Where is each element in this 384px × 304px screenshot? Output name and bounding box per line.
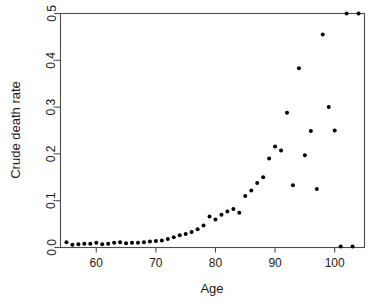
- data-point: [249, 188, 253, 192]
- data-point: [172, 235, 176, 239]
- data-point: [279, 149, 283, 153]
- data-point: [82, 242, 86, 246]
- data-point: [225, 209, 229, 213]
- data-point: [94, 241, 98, 245]
- data-point: [124, 241, 128, 245]
- y-tick-label: 0.3: [45, 98, 59, 115]
- x-tick-label: 100: [325, 256, 345, 270]
- data-point: [243, 194, 247, 198]
- data-point: [351, 245, 355, 249]
- data-point: [88, 242, 92, 246]
- data-point: [142, 240, 146, 244]
- data-point: [315, 187, 319, 191]
- x-axis-title: Age: [200, 281, 223, 296]
- y-tick-label: 0.5: [45, 5, 59, 22]
- data-point: [136, 241, 140, 245]
- data-point: [345, 12, 349, 16]
- data-point: [339, 245, 343, 249]
- data-point: [100, 242, 104, 246]
- x-tick-label: 60: [90, 256, 104, 270]
- data-point: [255, 181, 259, 185]
- x-tick-label: 90: [268, 256, 282, 270]
- data-point: [267, 157, 271, 161]
- data-point: [357, 12, 361, 16]
- data-point: [64, 240, 68, 244]
- data-point: [178, 233, 182, 237]
- data-point: [148, 239, 152, 243]
- data-point: [219, 213, 223, 217]
- data-point: [106, 242, 110, 246]
- data-point: [184, 232, 188, 236]
- data-point: [118, 240, 122, 244]
- data-point: [190, 230, 194, 234]
- data-point: [154, 239, 158, 243]
- x-tick-label: 80: [209, 256, 223, 270]
- y-tick-label: 0.0: [45, 239, 59, 256]
- data-point: [297, 66, 301, 70]
- data-point: [112, 241, 116, 245]
- data-point: [303, 153, 307, 157]
- data-point: [130, 241, 134, 245]
- y-axis-title: Crude death rate: [8, 81, 23, 179]
- data-point: [321, 33, 325, 37]
- scatter-plot-figure: 0.00.10.20.30.40.5 60708090100 Age Crude…: [0, 0, 384, 304]
- data-point: [237, 211, 241, 215]
- data-point: [76, 242, 80, 246]
- y-tick-label: 0.1: [45, 192, 59, 209]
- data-point: [291, 183, 295, 187]
- data-point: [196, 227, 200, 231]
- data-point: [285, 111, 289, 115]
- data-point: [166, 237, 170, 241]
- data-point: [327, 105, 331, 109]
- data-point: [208, 215, 212, 219]
- x-tick-label: 70: [149, 256, 163, 270]
- y-tick-label: 0.2: [45, 145, 59, 162]
- data-point: [309, 129, 313, 133]
- data-point: [261, 175, 265, 179]
- data-point: [202, 224, 206, 228]
- data-point: [333, 129, 337, 133]
- data-point: [160, 238, 164, 242]
- data-point: [70, 243, 74, 247]
- data-point: [231, 207, 235, 211]
- data-point: [213, 217, 217, 221]
- data-point: [273, 144, 277, 148]
- y-tick-label: 0.4: [45, 52, 59, 69]
